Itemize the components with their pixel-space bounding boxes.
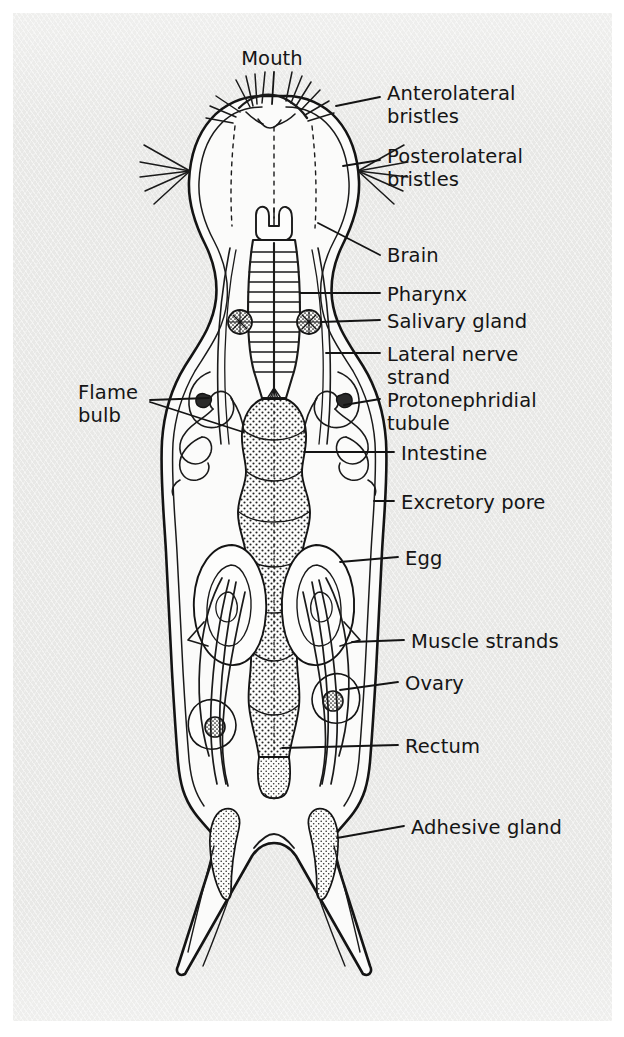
- label-salivary-gland: Salivary gland: [387, 311, 602, 334]
- label-pharynx: Pharynx: [387, 284, 597, 307]
- label-intestine: Intestine: [401, 443, 601, 466]
- label-adhesive-gland: Adhesive gland: [411, 817, 611, 840]
- label-brain: Brain: [387, 245, 597, 268]
- label-egg: Egg: [405, 548, 605, 571]
- salivary-gland-left: [228, 310, 252, 334]
- label-muscle-strands: Muscle strands: [411, 631, 611, 654]
- flame-bulb-left: [196, 394, 212, 408]
- salivary-gland-right: [297, 310, 321, 334]
- label-rectum: Rectum: [405, 736, 605, 759]
- rectum: [258, 757, 290, 798]
- egg-right: [282, 545, 354, 665]
- label-posterolateral-bristles: Posterolateral bristles: [387, 146, 597, 191]
- label-anterolateral-bristles: Anterolateral bristles: [387, 83, 597, 128]
- label-mouth: Mouth: [212, 48, 332, 71]
- leader-adhesive-gland: [337, 826, 404, 838]
- label-excretory-pore: Excretory pore: [401, 492, 601, 515]
- label-ovary: Ovary: [405, 673, 605, 696]
- label-flame-bulb: Flame bulb: [78, 382, 198, 427]
- label-protonephridial-tubule: Protonephridial tubule: [387, 390, 602, 435]
- egg-left: [194, 545, 266, 665]
- label-lateral-nerve-strand: Lateral nerve strand: [387, 344, 597, 389]
- posterolateral-bristles-left: [140, 145, 190, 204]
- figure-page: Mouth Anterolateral bristles Posterolate…: [0, 0, 624, 1037]
- leader-anterolateral-bristles: [336, 97, 380, 106]
